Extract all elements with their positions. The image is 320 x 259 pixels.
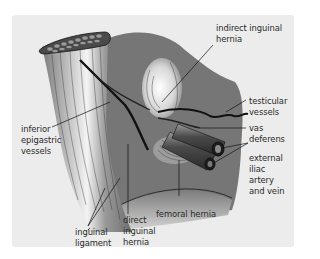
label-external-iliac-artery-vein: external iliac artery and vein	[249, 153, 284, 197]
label-vas-deferens: vas deferens	[249, 123, 285, 145]
label-inferior-epigastric-vessels: inferior epigastric vessels	[21, 124, 61, 157]
label-inguinal-ligament: inguinal ligament	[75, 227, 111, 249]
label-femoral-hernia: femoral hernia	[156, 209, 216, 220]
label-testicular-vessels: testicular vessels	[249, 96, 287, 118]
label-direct-inguinal-hernia: direct inguinal hernia	[123, 215, 156, 248]
label-indirect-inguinal-hernia: indirect inguinal hernia	[216, 23, 282, 45]
